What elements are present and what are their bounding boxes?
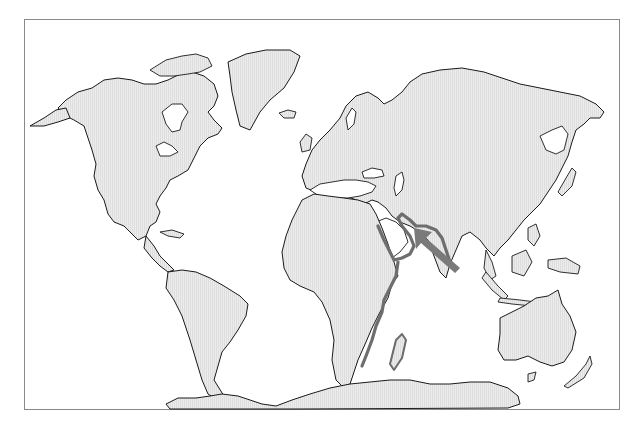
japan <box>558 168 576 196</box>
alaska <box>30 108 70 126</box>
british-isles <box>300 134 312 152</box>
north-america <box>58 72 222 240</box>
cuba <box>160 230 184 238</box>
borneo <box>512 250 532 276</box>
tasmania <box>528 372 536 382</box>
arctic-islands <box>150 54 212 76</box>
south-america <box>166 270 248 400</box>
central-america <box>144 236 174 272</box>
new-guinea <box>548 258 580 274</box>
new-zealand <box>564 356 592 388</box>
iceland <box>279 110 296 118</box>
world-map <box>0 0 635 424</box>
philippines <box>528 224 540 246</box>
